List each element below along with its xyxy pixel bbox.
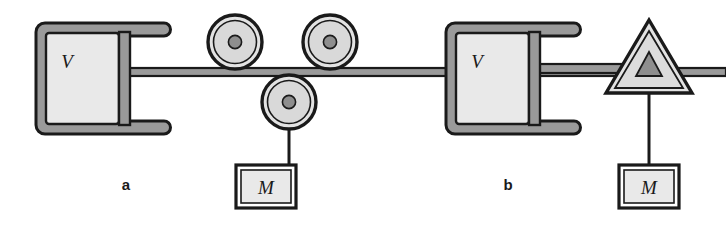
panel-a-weight-label: M [257, 177, 275, 198]
panel-a-upper-right-pulley [303, 15, 357, 69]
panel-a-upper-left-pulley [208, 15, 262, 69]
panel-a-cart [36, 23, 171, 134]
diagram-canvas: V M a [0, 0, 726, 231]
panel-a-lower-pulley [262, 75, 316, 129]
panel-b-label: b [503, 176, 512, 193]
physics-diagram-figure: V M a [0, 0, 726, 231]
panel-b-triangle-pulley [606, 20, 692, 93]
panel-b: V M b [446, 20, 692, 208]
panel-a-label: a [122, 176, 131, 193]
panel-b-weight-label: M [640, 177, 658, 198]
panel-b-cart [446, 23, 581, 134]
